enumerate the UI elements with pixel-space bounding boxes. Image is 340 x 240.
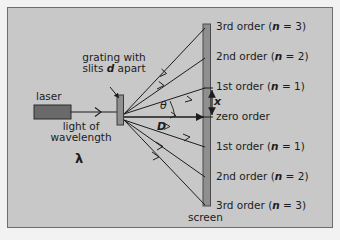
grating-label: grating with slits d apart [68,52,160,74]
order-text-zero: zero order [216,110,270,122]
distance-symbol: D [157,121,166,133]
order-text-down-1: 1st order [216,140,264,152]
order-text-down-2: 2nd order [216,170,267,182]
incident-beam [71,108,118,117]
order-label-up-2: 2nd order (n = 2) [216,51,309,62]
order-n-down-3: (n = 3) [268,199,306,211]
order-label-down-2: 2nd order (n = 2) [216,171,309,182]
beam-label: light of wavelength [44,121,118,143]
figure-root: 3rd order (n = 3) 2nd order (n = 2) 1st … [0,0,340,240]
wavelength-symbol: λ [75,152,83,166]
order-label-zero: zero order [216,111,270,122]
order-n-down-2: (n = 2) [271,170,309,182]
order-n-up-2: (n = 2) [271,50,309,62]
screen-bar [203,24,211,206]
theta-angle-arc [170,101,176,118]
order-label-up-3: 3rd order (n = 3) [216,21,306,32]
grating-label-line2: slits d apart [82,62,145,74]
theta-symbol: θ [160,100,167,112]
order-text-up-3: 3rd order [216,20,265,32]
grating-pointer [110,87,119,98]
order-n-up-3: (n = 3) [268,20,306,32]
order-text-up-2: 2nd order [216,50,267,62]
laser-label: laser [36,91,62,102]
order-text-up-1: 1st order [216,80,264,92]
order-n-up-1: (n = 1) [267,80,305,92]
laser-box [34,105,71,119]
beam-label-line2: wavelength [50,131,111,143]
order-n-down-1: (n = 1) [267,140,305,152]
screen-label: screen [188,212,223,223]
order-label-up-1: 1st order (n = 1) [216,81,305,92]
order-label-down-1: 1st order (n = 1) [216,141,305,152]
order-label-down-3: 3rd order (n = 3) [216,200,306,211]
fringe-spacing-symbol: x [214,96,221,108]
order-text-down-3: 3rd order [216,199,265,211]
